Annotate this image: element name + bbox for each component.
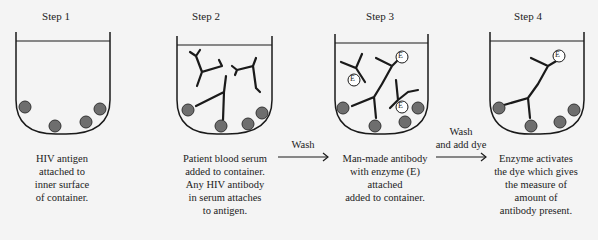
antigen-icon [19,101,106,132]
enzyme-label: E [555,50,560,59]
enzyme-label: E [398,101,403,110]
step-1-caption: HIV antigenattached to inner surfaceof c… [0,152,132,204]
container-4 [490,32,584,134]
antigen-icon [182,104,268,132]
step-3-caption: Man-made antibodywith enzyme (E) attache… [315,152,455,204]
container-1 [16,32,110,134]
step-4-caption: Enzyme activatesthe dye which gives the … [466,152,598,217]
antigen-icon [493,102,580,132]
enzyme-label: E [398,51,403,60]
enzyme-label: E [350,74,355,83]
antigen-icon [337,102,424,132]
container-3 [335,34,428,134]
arrow-2-label: Wash and add dye [430,125,492,151]
arrow-1-label: Wash [285,138,321,151]
step-2-caption: Patient blood serumadded to container. A… [155,152,295,217]
container-2 [177,36,272,134]
